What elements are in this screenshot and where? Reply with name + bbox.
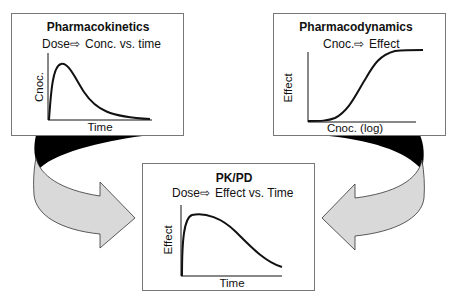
pkpd-panel: PK/PD Dose ⇨ Effect vs. Time Effect Time [143, 164, 315, 291]
right-arrow-body [322, 160, 424, 250]
pk-panel: Pharmacokinetics Dose ⇨ Conc. vs. time C… [12, 14, 184, 136]
pk-xlabel: Time [87, 121, 112, 133]
pk-ylabel: Cnoc. [33, 72, 45, 102]
pkpd-relation-left: Dose [172, 186, 200, 200]
arrow-right-icon: ⇨ [200, 186, 210, 200]
right-curved-arrow [320, 135, 424, 250]
pd-title: Pharmacodynamics [299, 20, 413, 34]
pd-ylabel: Effect [282, 73, 294, 103]
pd-panel: Pharmacodynamics Cnoc. ⇨ Effect Effect C… [274, 14, 446, 136]
pkpd-title: PK/PD [216, 171, 253, 185]
pd-relation-left: Cnoc. [323, 37, 354, 51]
left-arrow-shadow [34, 135, 150, 168]
pd-relation-right: Effect [369, 37, 400, 51]
pkpd-relation-right: Effect vs. Time [215, 186, 294, 200]
left-arrow-body [34, 158, 135, 248]
left-curved-arrow [34, 135, 150, 248]
pkpd-diagram: Pharmacokinetics Dose ⇨ Conc. vs. time C… [0, 0, 456, 299]
pkpd-xlabel: Time [219, 277, 244, 289]
pk-title: Pharmacokinetics [47, 20, 150, 34]
arrow-right-icon: ⇨ [354, 37, 364, 51]
pd-xlabel: Cnoc. (log) [327, 122, 383, 134]
arrow-right-icon: ⇨ [70, 37, 80, 51]
right-arrow-shadow [320, 135, 424, 170]
pk-relation-right: Conc. vs. time [85, 37, 161, 51]
pkpd-ylabel: Effect [162, 225, 174, 255]
pk-relation-left: Dose [42, 37, 70, 51]
